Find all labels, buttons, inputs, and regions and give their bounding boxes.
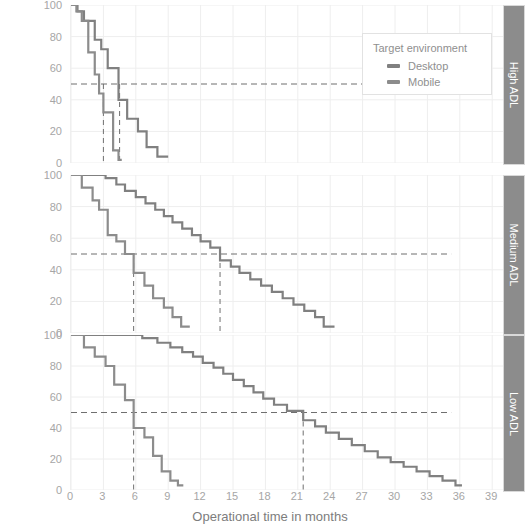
y-tick-label: 80: [24, 202, 62, 212]
y-tick-label: 40: [24, 423, 62, 433]
x-tick-label: 15: [217, 490, 247, 502]
x-tick-label: 36: [444, 490, 474, 502]
legend-title: Target environment: [373, 42, 481, 54]
legend: Target environment Desktop Mobile: [362, 33, 492, 95]
y-tick-label: 40: [24, 95, 62, 105]
y-tick-label: 20: [24, 454, 62, 464]
x-tick-label: 3: [87, 490, 117, 502]
panel-low-adl: [70, 335, 503, 490]
x-tick-label: 27: [347, 490, 377, 502]
x-tick-label: 21: [282, 490, 312, 502]
legend-label-desktop: Desktop: [408, 60, 448, 72]
x-tick-label: 9: [152, 490, 182, 502]
legend-swatch-mobile: [387, 80, 400, 84]
x-tick-label: 6: [120, 490, 150, 502]
panel-strip-high-adl: High ADL: [503, 5, 525, 165]
x-axis-label: Operational time in months: [70, 509, 470, 524]
legend-label-mobile: Mobile: [408, 76, 440, 88]
legend-swatch-desktop: [387, 64, 400, 68]
x-tick-label: 12: [185, 490, 215, 502]
y-tick-label: 100: [24, 170, 62, 180]
panel-medium-adl: [70, 175, 503, 333]
y-tick-label: 20: [24, 126, 62, 136]
x-tick-label: 24: [314, 490, 344, 502]
panel-strip-medium-adl: Medium ADL: [503, 175, 525, 335]
y-tick-label: 0: [24, 158, 62, 168]
y-axis-label: Survival probability (%): [0, 0, 13, 18]
y-tick-label: 60: [24, 233, 62, 243]
y-axis-label-wrap: Survival probability (%): [0, 0, 18, 500]
x-tick-label: 0: [55, 490, 85, 502]
x-tick-label: 18: [249, 490, 279, 502]
chart-root: Survival probability (%) 100806040200100…: [0, 0, 528, 531]
panel-strip-label: High ADL: [508, 62, 520, 108]
y-tick-label: 100: [24, 0, 62, 10]
panel-strip-low-adl: Low ADL: [503, 335, 525, 492]
legend-item-mobile[interactable]: Mobile: [387, 76, 481, 88]
y-tick-label: 60: [24, 392, 62, 402]
panel-strip-label: Medium ADL: [508, 224, 520, 287]
y-tick-label: 60: [24, 63, 62, 73]
legend-item-desktop[interactable]: Desktop: [387, 60, 481, 72]
x-tick-label: 39: [476, 490, 506, 502]
y-tick-label: 80: [24, 32, 62, 42]
x-tick-label: 33: [411, 490, 441, 502]
x-tick-label: 30: [379, 490, 409, 502]
y-tick-label: 40: [24, 265, 62, 275]
y-tick-label: 20: [24, 296, 62, 306]
panel-strip-label: Low ADL: [508, 391, 520, 435]
y-tick-label: 100: [24, 330, 62, 340]
y-tick-label: 80: [24, 361, 62, 371]
